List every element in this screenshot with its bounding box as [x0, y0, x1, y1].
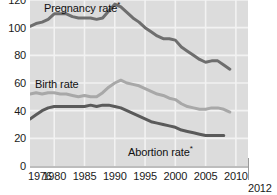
- teen-pregnancy-rate-chart: 020406080100120 197619801985199019952000…: [0, 0, 277, 195]
- series-label-abortion-rate-text: Abortion rate: [128, 146, 190, 158]
- x-axis-tick-label: 1990: [103, 171, 127, 182]
- series-label-pregnancy-rate-text: Pregnancy rate: [44, 2, 117, 14]
- x-axis-end-label: 2012: [248, 183, 272, 194]
- y-axis-tick-label: 60: [2, 78, 26, 89]
- x-axis-tick-label: 1995: [133, 171, 157, 182]
- x-axis-tick-label: 1980: [42, 171, 66, 182]
- y-axis-tick-label: 0: [2, 161, 26, 172]
- series-label-abortion-rate: Abortion rate*: [128, 143, 193, 158]
- x-axis-line: [30, 166, 249, 168]
- x-axis-tick-label: 2010: [224, 171, 248, 182]
- x-axis-tick-label: 1985: [73, 171, 97, 182]
- x-axis-tick-label: 2000: [163, 171, 187, 182]
- series-line-pregnancy-rate: [30, 4, 230, 69]
- y-axis-tick-label: 40: [2, 106, 26, 117]
- series-label-birth-rate: Birth rate: [35, 75, 79, 90]
- series-label-abortion-rate-superscript: *: [190, 144, 193, 153]
- series-lines: [30, 4, 230, 135]
- series-label-birth-rate-text: Birth rate: [35, 78, 79, 90]
- y-axis-tick-label: 120: [2, 0, 26, 6]
- y-axis-tick-label: 20: [2, 133, 26, 144]
- x-axis-tick-label: 2005: [194, 171, 218, 182]
- x-axis-end-tick: [248, 158, 249, 180]
- y-axis-tick-label: 100: [2, 23, 26, 34]
- y-axis-tick-label: 80: [2, 50, 26, 61]
- series-label-pregnancy-rate: Pregnancy rate*: [44, 0, 120, 14]
- series-label-pregnancy-rate-superscript: *: [117, 0, 120, 9]
